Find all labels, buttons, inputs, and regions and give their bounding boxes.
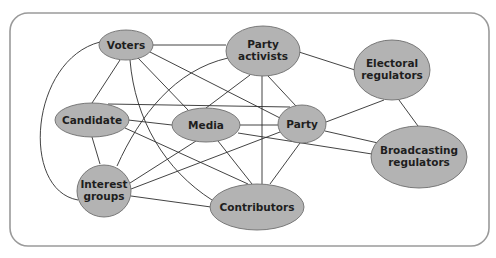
node-party[interactable]: Party [278, 105, 326, 143]
node-label: Party [286, 118, 318, 130]
node-label-line-2: groups [83, 190, 124, 202]
node-label-line-2: regulators [361, 69, 423, 81]
node-party-activists[interactable]: Party activists [226, 26, 300, 76]
node-label-line-2: regulators [388, 156, 450, 168]
node-contributors[interactable]: Contributors [210, 184, 304, 230]
node-label-line-2: activists [238, 50, 288, 62]
node-label: Voters [107, 39, 145, 51]
node-label: Contributors [220, 201, 295, 213]
node-label-line-1: Broadcasting [380, 144, 458, 156]
node-candidate[interactable]: Candidate [55, 103, 129, 137]
node-label-line-1: Electoral [366, 57, 418, 69]
node-media[interactable]: Media [172, 108, 240, 142]
node-electoral-regulators[interactable]: Electoral regulators [354, 40, 430, 100]
node-interest-groups[interactable]: Interest groups [77, 165, 131, 217]
node-label-line-1: Party [247, 38, 279, 50]
node-label-line-1: Interest [80, 178, 127, 190]
node-voters[interactable]: Voters [99, 30, 153, 60]
node-label: Media [188, 119, 224, 131]
node-broadcasting-regulators[interactable]: Broadcasting regulators [371, 126, 467, 188]
node-label: Candidate [62, 114, 122, 126]
network-diagram: Voters Party activists Electoral regulat… [0, 0, 496, 258]
